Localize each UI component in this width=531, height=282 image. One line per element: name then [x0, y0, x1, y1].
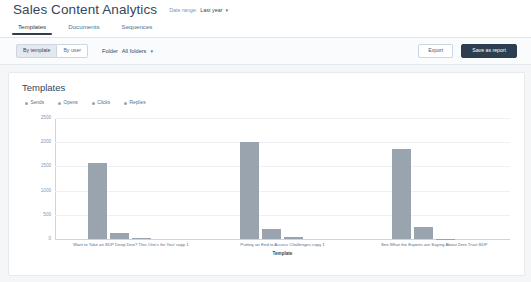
- folder-filter[interactable]: Folder All folders ▾: [102, 48, 153, 54]
- legend-label: Opens: [64, 101, 78, 106]
- segment-by-user[interactable]: By user: [57, 44, 88, 58]
- export-button[interactable]: Export: [418, 44, 453, 58]
- date-range-filter[interactable]: Date range: Last year ▾: [169, 7, 228, 13]
- y-axis-tick-label: 1000: [41, 188, 51, 193]
- legend-label: Sends: [31, 101, 45, 106]
- bar-group: See What the Experts are Saying About Ze…: [358, 118, 510, 239]
- templates-chart-card: Templates SendsOpensClicksReplies 050010…: [8, 72, 525, 276]
- legend-swatch-icon: [58, 102, 61, 105]
- y-axis-tick-label: 0: [48, 237, 51, 242]
- y-axis-tick-label: 1500: [41, 164, 51, 169]
- page-title: Sales Content Analytics: [13, 3, 157, 17]
- x-axis-title: Template: [55, 252, 510, 257]
- bar-clicks[interactable]: [132, 238, 151, 239]
- legend-swatch-icon: [124, 102, 127, 105]
- filter-toolbar: By template By user Folder All folders ▾…: [0, 38, 531, 65]
- save-as-report-button[interactable]: Save as report: [461, 44, 517, 58]
- tab-sequences-label: Sequences: [122, 23, 153, 30]
- y-axis-tick-label: 500: [43, 213, 51, 218]
- page-header: Sales Content Analytics Date range: Last…: [0, 0, 531, 20]
- date-range-value: Last year: [200, 7, 222, 13]
- segment-by-template[interactable]: By template: [16, 44, 57, 58]
- chart-legend: SendsOpensClicksReplies: [25, 101, 146, 106]
- chevron-down-icon: ▾: [226, 7, 229, 13]
- chevron-down-icon: ▾: [150, 48, 153, 54]
- x-axis-tick-label: Putting an End to Access Challenges copy…: [195, 243, 371, 248]
- bar-sends[interactable]: [88, 163, 107, 239]
- tab-documents[interactable]: Documents: [68, 20, 99, 35]
- chart-plot-area: 05001000150020002500 Want to Take an SDP…: [55, 118, 510, 239]
- legend-swatch-icon: [25, 102, 28, 105]
- tab-sequences[interactable]: Sequences: [122, 20, 153, 35]
- x-axis-tick-label: Want to Take an SDP Deep Dive? This One'…: [43, 243, 219, 248]
- grouping-segmented-control: By template By user: [16, 44, 88, 58]
- sales-content-analytics-page: Sales Content Analytics Date range: Last…: [0, 0, 531, 282]
- y-axis-tick-label: 2500: [41, 116, 51, 121]
- bar-opens[interactable]: [414, 227, 433, 239]
- bar-opens[interactable]: [110, 233, 129, 239]
- legend-item-clicks[interactable]: Clicks: [92, 101, 110, 106]
- bar-sends[interactable]: [240, 142, 259, 239]
- legend-item-opens[interactable]: Opens: [58, 101, 78, 106]
- card-title: Templates: [22, 83, 65, 93]
- tab-documents-label: Documents: [68, 23, 99, 30]
- bar-group: Want to Take an SDP Deep Dive? This One'…: [55, 118, 207, 239]
- bar-clicks[interactable]: [284, 237, 303, 239]
- legend-item-replies[interactable]: Replies: [124, 101, 146, 106]
- folder-filter-value: All folders: [122, 48, 147, 54]
- legend-label: Replies: [130, 101, 146, 106]
- legend-swatch-icon: [92, 102, 95, 105]
- gridline: [55, 239, 510, 240]
- legend-item-sends[interactable]: Sends: [25, 101, 44, 106]
- bar-sends[interactable]: [392, 149, 411, 239]
- bar-opens[interactable]: [262, 229, 281, 239]
- date-range-label: Date range:: [169, 7, 197, 13]
- tab-templates-label: Templates: [18, 23, 46, 30]
- toolbar-actions: Export Save as report: [418, 44, 517, 58]
- chart-bar-groups: Want to Take an SDP Deep Dive? This One'…: [55, 118, 510, 239]
- templates-bar-chart: 05001000150020002500 Want to Take an SDP…: [9, 113, 524, 273]
- legend-label: Clicks: [97, 101, 110, 106]
- tab-templates[interactable]: Templates: [18, 20, 46, 35]
- folder-filter-label: Folder: [102, 48, 118, 54]
- x-axis-tick-label: See What the Experts are Saying About Ze…: [346, 243, 522, 248]
- y-axis-tick-label: 2000: [41, 140, 51, 145]
- main-tabs: Templates Documents Sequences: [0, 20, 531, 38]
- bar-group: Putting an End to Access Challenges copy…: [207, 118, 359, 239]
